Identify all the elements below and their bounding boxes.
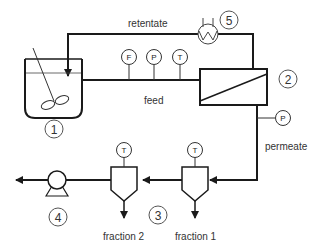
svg-text:4: 4 <box>55 211 62 225</box>
feed-label: feed <box>144 95 163 106</box>
unit-label-4: 4 <box>49 208 67 226</box>
permeate-label: permeate <box>265 141 308 152</box>
unit-label-1: 1 <box>45 120 63 138</box>
svg-text:T: T <box>122 146 127 155</box>
separator-1-icon: T <box>182 143 208 219</box>
svg-text:T: T <box>178 53 183 62</box>
process-flow-diagram: retentate 5 1 feed F P <box>0 0 323 251</box>
stirred-tank-icon <box>25 48 82 118</box>
flow-indicator-icon: F <box>122 50 137 81</box>
svg-text:F: F <box>127 53 132 62</box>
separator-2-icon: T <box>111 143 137 219</box>
temperature-indicator-icon: T <box>173 50 188 81</box>
svg-text:1: 1 <box>51 123 58 137</box>
svg-text:T: T <box>193 146 198 155</box>
svg-text:2: 2 <box>285 73 292 87</box>
heat-exchanger-icon <box>198 18 218 44</box>
pump-icon <box>46 171 68 196</box>
fraction-2-label: fraction 2 <box>103 231 145 242</box>
unit-label-3: 3 <box>149 206 167 224</box>
svg-text:P: P <box>280 114 285 123</box>
permeate-pressure-icon: P <box>276 111 291 126</box>
membrane-module-icon <box>200 69 267 105</box>
unit-label-2: 2 <box>279 70 297 88</box>
pressure-indicator-icon: P <box>147 50 162 81</box>
svg-text:3: 3 <box>155 209 162 223</box>
unit-label-5: 5 <box>220 11 238 29</box>
svg-text:5: 5 <box>226 14 233 28</box>
svg-text:P: P <box>151 53 156 62</box>
retentate-label: retentate <box>128 18 168 29</box>
fraction-1-label: fraction 1 <box>175 231 217 242</box>
